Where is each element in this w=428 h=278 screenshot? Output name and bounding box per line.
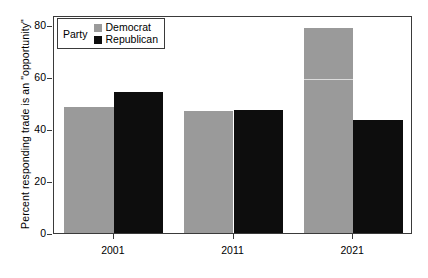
bar-2001-republican: [114, 92, 164, 233]
y-tick-label: 0: [20, 228, 46, 239]
legend-label: Republican: [106, 34, 159, 45]
legend-item-republican: Republican: [94, 34, 159, 45]
y-tick-label: 80: [20, 20, 46, 31]
x-tick-mark: [233, 234, 234, 239]
legend-swatch-icon: [94, 24, 102, 32]
x-tick-mark: [352, 234, 353, 239]
legend-entries: DemocratRepublican: [94, 22, 159, 45]
y-tick-label: 60: [20, 72, 46, 83]
legend-label: Democrat: [106, 22, 152, 33]
bar-2021-democrat: [304, 28, 354, 233]
legend-title: Party: [63, 28, 88, 40]
legend: Party DemocratRepublican: [57, 18, 165, 49]
y-tick-mark: [47, 130, 52, 131]
bar-2001-democrat: [64, 107, 114, 233]
x-tick-label: 2011: [221, 244, 244, 256]
y-tick-label: 20: [20, 176, 46, 187]
bar-2021-republican: [353, 120, 403, 233]
y-tick-mark: [47, 78, 52, 79]
bar-2011-republican: [234, 110, 284, 233]
y-tick-label: 40: [20, 124, 46, 135]
scan-artifact-line: [304, 79, 354, 80]
x-tick-mark: [113, 234, 114, 239]
legend-item-democrat: Democrat: [94, 22, 159, 33]
y-tick-mark: [47, 234, 52, 235]
bar-2011-democrat: [184, 111, 234, 233]
x-tick-label: 2001: [101, 244, 124, 256]
legend-swatch-icon: [94, 36, 102, 44]
x-tick-label: 2021: [340, 244, 363, 256]
y-tick-mark: [47, 26, 52, 27]
y-axis-ticks: 020406080: [18, 0, 46, 278]
bar-chart: Percent responding trade is an "opportun…: [0, 0, 428, 278]
y-tick-mark: [47, 182, 52, 183]
